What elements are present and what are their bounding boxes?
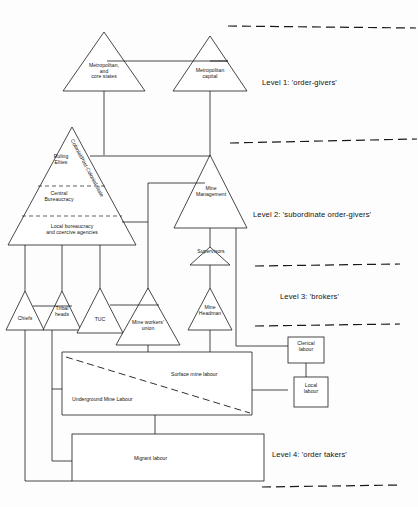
triangle-mine-management <box>174 155 247 228</box>
triangle-tribal-heads <box>43 291 81 330</box>
divider-level-3-top <box>255 264 400 266</box>
triangle-metropolitan-capital <box>173 36 247 91</box>
level-label-3: Level 3: 'brokers' <box>280 292 339 301</box>
link-tribal-to-underground <box>52 330 62 389</box>
node-migrant-labour: Migrant labour <box>134 455 167 461</box>
box-migrant-labour <box>72 434 264 481</box>
triangle-mine-headman <box>188 288 232 330</box>
divider-level-3-bottom <box>255 324 400 326</box>
level-label-1: Level 1: 'order-givers' <box>262 78 337 87</box>
level-label-4: Level 4: 'order takers' <box>272 450 347 459</box>
triangle-chiefs <box>6 291 44 330</box>
node-underground-mine-labour: Underground Mine Labour <box>72 396 133 402</box>
divider-level-2 <box>230 139 417 143</box>
link-mine-management-to-clerical <box>236 228 288 346</box>
box-mine-labour <box>62 352 252 415</box>
triangle-mine-workers-union <box>116 288 180 345</box>
triangle-metropolitan-core-states <box>63 32 145 91</box>
box-clerical-labour <box>288 337 324 363</box>
box-local-labour <box>294 377 328 407</box>
level-label-2: Level 2: 'subordinate order-givers' <box>253 210 371 219</box>
triangle-supervisors <box>190 247 230 265</box>
divider-level-1 <box>228 26 416 28</box>
triangle-tuc <box>77 288 123 333</box>
hierarchy-diagram: Metropolitan, and core states Metropolit… <box>0 0 418 507</box>
node-surface-mine-labour: Surface mine labour <box>171 371 217 377</box>
divider-level-4 <box>262 485 400 487</box>
diagram-line-layer <box>0 0 418 507</box>
